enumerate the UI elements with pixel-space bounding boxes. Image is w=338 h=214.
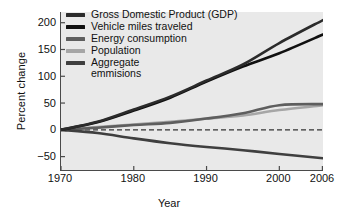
- legend-swatch-icon: [66, 61, 85, 65]
- legend-item-label: Population: [91, 45, 141, 56]
- x-tick-label: 2006: [310, 172, 334, 184]
- x-tick-label: 2000: [266, 172, 290, 184]
- legend-item-label: Vehicle miles traveled: [91, 21, 193, 32]
- legend-item-label: Energy consumption: [91, 33, 187, 44]
- chart-figure: Percent change 200 150 100 50 0 −50 1970…: [0, 0, 338, 214]
- legend-item-vehicle-miles-traveled: Vehicle miles traveled: [66, 21, 266, 32]
- legend-item-gdp: Gross Domestic Product (GDP): [66, 9, 266, 20]
- y-tick-label: −50: [22, 151, 56, 162]
- x-axis-tick-labels: 1970 1980 1990 2000 2006: [0, 172, 338, 192]
- x-tick-label: 1970: [48, 172, 72, 184]
- legend-swatch-icon: [66, 25, 85, 29]
- x-axis-label: Year: [0, 197, 338, 209]
- y-tick-label: 100: [22, 71, 56, 82]
- series-line: [61, 105, 323, 130]
- legend-item-population: Population: [66, 45, 266, 56]
- legend-swatch-icon: [66, 49, 85, 53]
- x-tick-label: 1980: [121, 172, 145, 184]
- y-tick-label: 150: [22, 44, 56, 55]
- chart-legend: Gross Domestic Product (GDP) Vehicle mil…: [66, 9, 266, 80]
- legend-item-aggregate-emmisions: Aggregate emmisions: [66, 57, 266, 79]
- y-tick-label: 50: [22, 98, 56, 109]
- legend-item-label: Gross Domestic Product (GDP): [91, 9, 237, 20]
- legend-item-energy-consumption: Energy consumption: [66, 33, 266, 44]
- legend-swatch-icon: [66, 37, 85, 41]
- y-tick-label: 200: [22, 17, 56, 28]
- series-line: [61, 130, 323, 158]
- legend-item-label: Aggregate emmisions: [91, 57, 141, 79]
- legend-swatch-icon: [66, 13, 85, 17]
- x-tick-label: 1990: [193, 172, 217, 184]
- y-tick-label: 0: [22, 124, 56, 135]
